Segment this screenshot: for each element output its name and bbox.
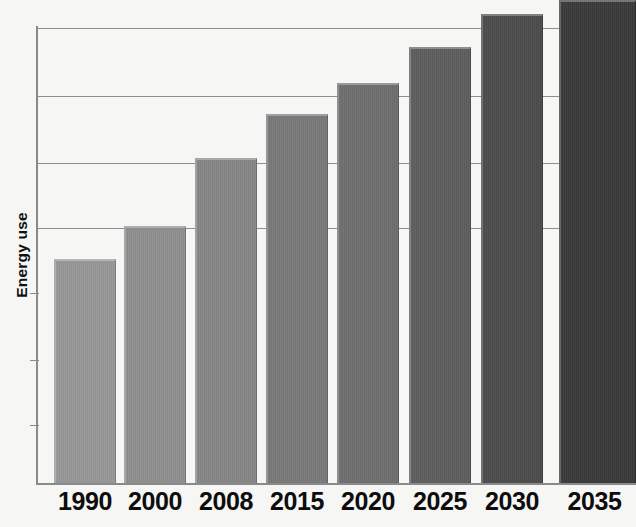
x-tick-label-1990: 1990 [54,487,116,516]
bar-1990[interactable] [54,259,116,483]
bar-2035[interactable] [559,0,636,483]
bar-2015[interactable] [266,114,328,483]
x-tick-label-2025: 2025 [409,487,471,516]
x-tick-label-2035: 2035 [556,487,633,516]
bar-2030[interactable] [481,14,543,483]
bar-2025[interactable] [409,47,471,483]
bar-chart: Energy use 19902000200820152020202520302… [0,0,636,527]
x-tick-label-2000: 2000 [124,487,186,516]
bar-2020[interactable] [337,83,399,483]
x-tick-label-2008: 2008 [195,487,257,516]
bar-2008[interactable] [195,158,257,483]
bar-2000[interactable] [124,226,186,483]
bar-series [0,0,636,484]
x-tick-label-2020: 2020 [337,487,399,516]
x-tick-label-2015: 2015 [266,487,328,516]
x-axis-tick-labels: 19902000200820152020202520302035 [0,487,636,527]
x-tick-label-2030: 2030 [481,487,543,516]
